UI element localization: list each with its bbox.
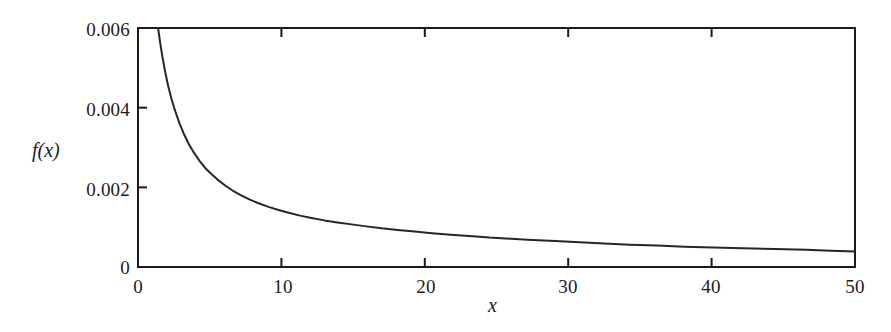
- x-tick-label-10: 10: [253, 276, 313, 298]
- x-tick-label-0: 0: [108, 276, 168, 298]
- y-tick-label-0.004: 0.004: [34, 99, 130, 121]
- axis-box: [138, 28, 855, 267]
- x-axis-ticks: [281, 28, 711, 267]
- x-tick-label-50: 50: [825, 276, 885, 298]
- y-axis-title-text: f(x): [32, 139, 60, 161]
- x-axis-title-text: x: [488, 294, 497, 316]
- y-tick-label-0.006: 0.006: [34, 19, 130, 41]
- x-tick-label-30: 30: [538, 276, 598, 298]
- x-tick-label-20: 20: [396, 276, 456, 298]
- y-axis-ticks: [138, 108, 147, 188]
- x-axis-title: x: [488, 294, 497, 317]
- data-series-line: [158, 28, 855, 251]
- y-axis-title: f(x): [32, 139, 60, 162]
- figure-container: 0.006 0.004 0.002 0 0 10 20 30 40 50 f(x…: [0, 0, 891, 332]
- y-tick-label-0.002: 0.002: [34, 179, 130, 201]
- x-tick-label-40: 40: [681, 276, 741, 298]
